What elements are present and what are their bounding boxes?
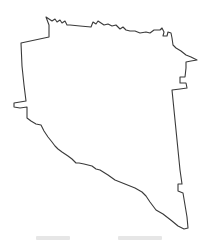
map-canvas <box>0 0 209 240</box>
cropped-caption <box>0 234 209 240</box>
caption-fragment <box>118 236 162 240</box>
region-boundary-outline <box>14 17 197 229</box>
caption-fragment <box>36 236 70 240</box>
